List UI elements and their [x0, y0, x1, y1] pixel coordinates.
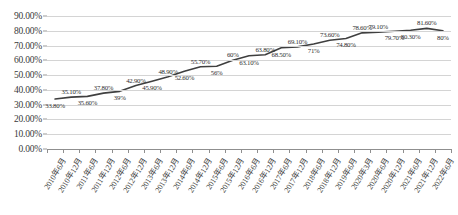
- x-tick-mark: [63, 149, 64, 153]
- x-tick-mark: [176, 149, 177, 153]
- gridline: [47, 134, 451, 135]
- y-tick-label: 70.00%: [14, 41, 42, 51]
- data-label: 42.90%: [126, 77, 145, 84]
- y-tick-label: 30.00%: [14, 100, 42, 110]
- data-label: 45.90%: [142, 84, 161, 91]
- data-label: 68.50%: [272, 51, 291, 58]
- x-axis-line: [47, 149, 451, 150]
- x-tick-mark: [257, 149, 258, 153]
- x-tick-mark: [306, 149, 307, 153]
- x-tick-mark: [322, 149, 323, 153]
- gridline: [47, 31, 451, 32]
- x-tick-mark: [209, 149, 210, 153]
- x-tick-mark: [289, 149, 290, 153]
- data-label: 35.60%: [78, 99, 97, 106]
- x-tick-mark: [386, 149, 387, 153]
- data-label: 39%: [114, 94, 126, 101]
- x-tick-mark: [225, 149, 226, 153]
- data-label: 69.10%: [288, 38, 307, 45]
- y-tick-label: 40.00%: [14, 85, 42, 95]
- x-tick-mark: [451, 149, 452, 153]
- data-label: 80%: [437, 34, 449, 41]
- x-tick-mark: [79, 149, 80, 153]
- data-label: 79.10%: [369, 23, 388, 30]
- data-label: 80.30%: [401, 33, 420, 40]
- x-tick-mark: [354, 149, 355, 153]
- gridline: [47, 119, 451, 120]
- x-tick-mark: [419, 149, 420, 153]
- y-tick-label: 90.00%: [14, 11, 42, 21]
- x-tick-mark: [144, 149, 145, 153]
- data-label: 55.70%: [191, 58, 210, 65]
- x-tick-mark: [273, 149, 274, 153]
- data-label: 37.80%: [94, 84, 113, 91]
- data-label: 33.80%: [45, 102, 64, 109]
- x-tick-mark: [128, 149, 129, 153]
- x-tick-mark: [112, 149, 113, 153]
- y-tick-label: 50.00%: [14, 70, 42, 80]
- data-label: 63.10%: [239, 59, 258, 66]
- data-label: 81.60%: [417, 19, 436, 26]
- gridline: [47, 46, 451, 47]
- data-label: 35.10%: [62, 88, 81, 95]
- y-tick-label: 0.00%: [18, 144, 42, 154]
- x-tick-mark: [47, 149, 48, 153]
- data-label: 73.60%: [320, 31, 339, 38]
- x-tick-mark: [241, 149, 242, 153]
- x-tick-mark: [403, 149, 404, 153]
- y-tick-label: 60.00%: [14, 55, 42, 65]
- data-label: 60%: [227, 51, 239, 58]
- y-axis: 0.00%10.00%20.00%30.00%40.00%50.00%60.00…: [0, 16, 45, 149]
- data-label: 56%: [211, 69, 223, 76]
- line-chart: 0.00%10.00%20.00%30.00%40.00%50.00%60.00…: [0, 0, 458, 215]
- y-tick-label: 10.00%: [14, 129, 42, 139]
- data-label: 52.60%: [175, 74, 194, 81]
- gridline: [47, 16, 451, 17]
- y-tick-label: 20.00%: [14, 114, 42, 124]
- data-label: 74.80%: [336, 41, 355, 48]
- x-tick-mark: [435, 149, 436, 153]
- x-tick-mark: [192, 149, 193, 153]
- gridline: [47, 75, 451, 76]
- y-tick-label: 80.00%: [14, 26, 42, 36]
- x-tick-mark: [370, 149, 371, 153]
- x-tick-mark: [160, 149, 161, 153]
- x-tick-mark: [95, 149, 96, 153]
- x-tick-mark: [338, 149, 339, 153]
- gridline: [47, 105, 451, 106]
- data-label: 71%: [308, 47, 320, 54]
